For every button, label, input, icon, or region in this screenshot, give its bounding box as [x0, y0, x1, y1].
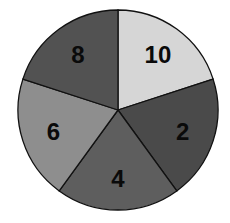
slice-label: 6 [47, 118, 60, 145]
slice-label: 10 [145, 41, 172, 68]
slice-label: 2 [176, 118, 189, 145]
pie-chart: 102468 [0, 0, 230, 223]
slice-label: 4 [111, 165, 125, 192]
slice-label: 8 [71, 41, 84, 68]
